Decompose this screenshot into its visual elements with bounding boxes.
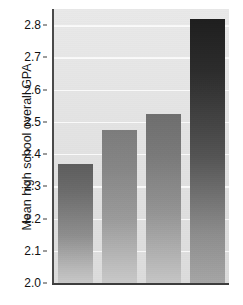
y-tick-mark xyxy=(43,186,47,187)
y-tick-mark xyxy=(43,57,47,58)
y-tick-label: 2.0 xyxy=(24,276,41,290)
y-tick-label: 2.8 xyxy=(24,18,41,32)
y-tick-mark xyxy=(43,250,47,251)
bar xyxy=(102,130,137,283)
y-tick-label: 2.6 xyxy=(24,83,41,97)
y-tick-label: 2.5 xyxy=(24,115,41,129)
y-tick-label: 2.1 xyxy=(24,244,41,258)
y-tick-mark xyxy=(43,154,47,155)
x-axis-line xyxy=(52,283,229,285)
y-axis-tick-labels: 2.82.72.62.52.42.32.22.12.0 xyxy=(0,0,48,305)
y-tick-mark xyxy=(43,25,47,26)
y-tick-label: 2.3 xyxy=(24,179,41,193)
y-tick-label: 2.2 xyxy=(24,212,41,226)
bar xyxy=(58,164,93,283)
bar xyxy=(190,19,225,283)
plot-area xyxy=(54,9,229,283)
y-tick-mark xyxy=(43,121,47,122)
bar-chart: Mean high school overall GPA 2.82.72.62.… xyxy=(0,0,243,305)
y-tick-mark xyxy=(43,89,47,90)
y-tick-label: 2.4 xyxy=(24,147,41,161)
y-tick-mark xyxy=(43,283,47,284)
y-tick-label: 2.7 xyxy=(24,50,41,64)
y-tick-mark xyxy=(43,218,47,219)
bar xyxy=(146,114,181,283)
